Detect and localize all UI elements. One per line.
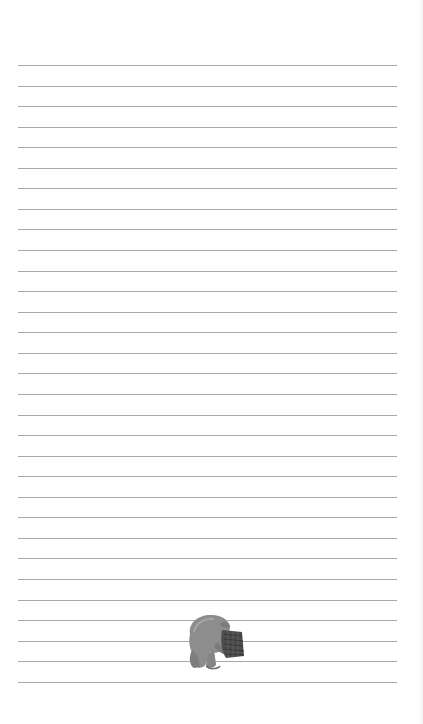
ruled-line <box>18 682 397 683</box>
ruled-line <box>18 497 397 498</box>
ruled-line <box>18 353 397 354</box>
page-edge-shadow <box>419 0 423 724</box>
ruled-line <box>18 86 397 87</box>
ruled-line <box>18 209 397 210</box>
honey-pot-icon <box>221 630 244 658</box>
ruled-line <box>18 394 397 395</box>
ruled-line <box>18 312 397 313</box>
ruled-line <box>18 127 397 128</box>
ruled-line <box>18 65 397 66</box>
ruled-line <box>18 415 397 416</box>
ruled-line <box>18 579 397 580</box>
ruled-line <box>18 188 397 189</box>
ruled-line <box>18 538 397 539</box>
ruled-line <box>18 435 397 436</box>
ruled-line <box>18 373 397 374</box>
ruled-line <box>18 558 397 559</box>
ruled-line <box>18 291 397 292</box>
ruled-line <box>18 271 397 272</box>
ruled-line <box>18 147 397 148</box>
ruled-line <box>18 600 397 601</box>
notepaper-page <box>0 0 423 724</box>
ruled-line <box>18 250 397 251</box>
ruled-line <box>18 168 397 169</box>
ruled-line <box>18 456 397 457</box>
bear-honey-pot-illustration <box>184 612 248 672</box>
ruled-line <box>18 229 397 230</box>
ruled-line <box>18 332 397 333</box>
ruled-line <box>18 476 397 477</box>
ruled-line <box>18 517 397 518</box>
ruled-line <box>18 106 397 107</box>
